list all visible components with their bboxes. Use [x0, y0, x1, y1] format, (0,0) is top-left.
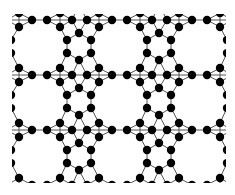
graph-node — [216, 174, 224, 182]
graph-node — [143, 49, 151, 57]
graph-node — [175, 174, 183, 182]
graph-node — [95, 119, 103, 127]
graph-node — [28, 16, 36, 24]
graph-node — [75, 111, 83, 119]
graph-node — [108, 71, 116, 79]
graph-node — [28, 71, 36, 79]
lattice-graph — [0, 0, 235, 195]
graph-node — [216, 64, 224, 72]
graph-node — [143, 159, 151, 167]
graph-node — [63, 36, 71, 44]
graph-node — [75, 139, 83, 147]
graph-node — [108, 126, 116, 134]
graph-node — [15, 23, 23, 31]
graph-node — [15, 64, 23, 72]
graph-node — [83, 126, 91, 134]
graph-node — [56, 174, 64, 182]
graph-node — [87, 104, 95, 112]
graph-node — [95, 78, 103, 86]
graph-node — [203, 16, 211, 24]
graph-node — [123, 126, 131, 134]
graph-node — [15, 78, 23, 86]
graph-node — [148, 126, 156, 134]
graph-node — [95, 64, 103, 72]
graph-node — [56, 119, 64, 127]
graph-node — [216, 78, 224, 86]
graph-node — [175, 23, 183, 31]
graph-node — [56, 23, 64, 31]
graph-node — [63, 49, 71, 57]
graph-node — [148, 71, 156, 79]
graph-node — [136, 64, 144, 72]
graph-node — [63, 91, 71, 99]
background — [0, 0, 235, 195]
graph-node — [63, 159, 71, 167]
graph-node — [143, 36, 151, 44]
graph-node — [75, 29, 83, 37]
graph-node — [136, 119, 144, 127]
graph-node — [155, 29, 163, 37]
graph-node — [188, 16, 196, 24]
graph-node — [136, 78, 144, 86]
graph-node — [56, 64, 64, 72]
graph-node — [75, 56, 83, 64]
graph-node — [167, 91, 175, 99]
graph-node — [136, 133, 144, 141]
graph-node — [216, 133, 224, 141]
graph-node — [83, 71, 91, 79]
graph-node — [188, 71, 196, 79]
graph-node — [87, 159, 95, 167]
graph-node — [163, 16, 171, 24]
graph-node — [163, 126, 171, 134]
graph-node — [87, 146, 95, 154]
graph-node — [15, 119, 23, 127]
graph-node — [155, 84, 163, 92]
graph-node — [63, 104, 71, 112]
graph-node — [123, 16, 131, 24]
graph-node — [68, 71, 76, 79]
graph-node — [143, 146, 151, 154]
graph-node — [155, 56, 163, 64]
graph-node — [15, 174, 23, 182]
graph-node — [155, 166, 163, 174]
graph-node — [68, 16, 76, 24]
graph-node — [75, 166, 83, 174]
graph-node — [167, 36, 175, 44]
graph-node — [167, 104, 175, 112]
graph-node — [28, 126, 36, 134]
graph-node — [143, 104, 151, 112]
graph-node — [75, 84, 83, 92]
graph-node — [83, 16, 91, 24]
graph-node — [87, 91, 95, 99]
graph-node — [43, 71, 51, 79]
graph-node — [68, 126, 76, 134]
graph-node — [188, 126, 196, 134]
graph-node — [136, 23, 144, 31]
graph-node — [108, 16, 116, 24]
graph-node — [15, 133, 23, 141]
graph-node — [216, 119, 224, 127]
graph-node — [175, 78, 183, 86]
lattice-diagram — [0, 0, 235, 195]
graph-node — [56, 78, 64, 86]
graph-node — [203, 71, 211, 79]
graph-node — [43, 16, 51, 24]
graph-node — [95, 23, 103, 31]
graph-node — [175, 119, 183, 127]
graph-node — [167, 49, 175, 57]
graph-node — [175, 64, 183, 72]
graph-node — [155, 139, 163, 147]
graph-node — [63, 146, 71, 154]
graph-node — [175, 133, 183, 141]
graph-node — [203, 126, 211, 134]
graph-node — [148, 16, 156, 24]
graph-node — [43, 126, 51, 134]
graph-node — [216, 23, 224, 31]
graph-node — [136, 174, 144, 182]
graph-node — [155, 111, 163, 119]
graph-node — [56, 133, 64, 141]
graph-node — [95, 133, 103, 141]
graph-node — [123, 71, 131, 79]
graph-node — [87, 49, 95, 57]
graph-node — [167, 159, 175, 167]
